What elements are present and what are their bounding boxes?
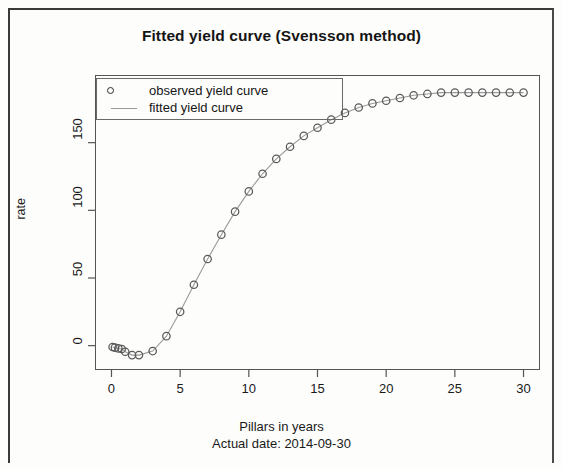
- x-axis-subtitle-date: Actual date: 2014-09-30: [0, 436, 563, 451]
- x-tick-label: 20: [379, 381, 393, 396]
- legend-label-fitted: fitted yield curve: [149, 99, 243, 117]
- x-axis-tick-labels: 051015202530: [95, 381, 540, 401]
- x-tick-label: 5: [177, 381, 184, 396]
- x-tick-label: 10: [242, 381, 256, 396]
- chart-legend: observed yield curve fitted yield curve: [96, 78, 343, 120]
- x-tick-label: 0: [108, 381, 115, 396]
- observed-yield-curve-markers: [109, 89, 527, 359]
- legend-item-fitted: fitted yield curve: [97, 99, 342, 117]
- x-tick-label: 30: [516, 381, 530, 396]
- y-axis-title: rate: [14, 198, 28, 220]
- legend-line-marker-icon: [107, 99, 141, 117]
- y-tick-label: 0: [70, 338, 85, 345]
- y-tick-label: 150: [70, 118, 85, 140]
- x-axis-title: Pillars in years: [0, 419, 563, 434]
- chart-title: Fitted yield curve (Svensson method): [0, 27, 563, 45]
- y-tick-label: 100: [70, 186, 85, 208]
- y-tick-label: 50: [70, 262, 85, 276]
- y-axis-tick-labels: 050100150: [45, 75, 85, 370]
- legend-item-observed: observed yield curve: [97, 82, 342, 100]
- x-tick-label: 15: [310, 381, 324, 396]
- legend-label-observed: observed yield curve: [149, 82, 268, 100]
- legend-circle-marker-icon: [107, 87, 114, 94]
- x-tick-label: 25: [448, 381, 462, 396]
